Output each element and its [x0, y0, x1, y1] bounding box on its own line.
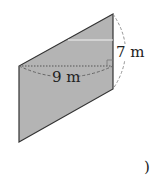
height-label: 7 m — [116, 43, 145, 61]
base-label: 9 m — [52, 68, 81, 86]
trailing-paren: ) — [144, 158, 150, 176]
parallelogram-diagram: 9 m 7 m ) — [0, 0, 158, 176]
